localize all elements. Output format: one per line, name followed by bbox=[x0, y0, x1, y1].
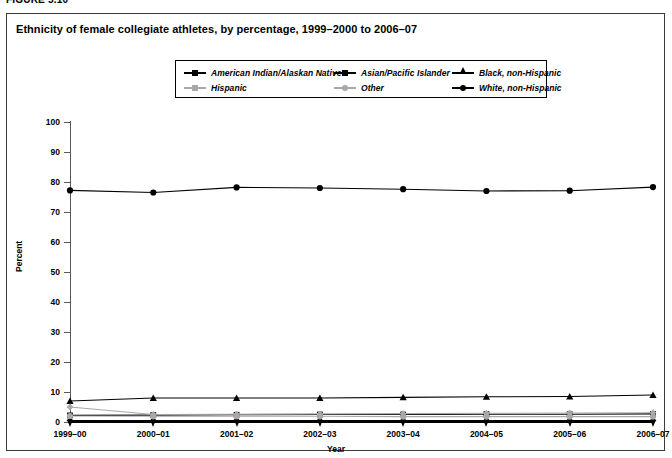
x-axis-line bbox=[70, 421, 654, 423]
y-axis-tick-label: 30 bbox=[36, 327, 60, 337]
x-axis-tick-label: 2005–06 bbox=[553, 429, 586, 439]
x-axis-tick bbox=[651, 422, 655, 427]
legend-item-hispanic: Hispanic bbox=[184, 83, 334, 93]
y-axis-tick bbox=[64, 302, 70, 303]
legend-label: American Indian/Alaskan Native bbox=[211, 68, 341, 78]
y-axis-tick bbox=[64, 272, 70, 273]
y-axis-tick bbox=[64, 122, 70, 123]
y-axis-tick-label: 50 bbox=[36, 267, 60, 277]
diamond-marker-icon bbox=[184, 68, 206, 78]
legend-item-american-indian: American Indian/Alaskan Native bbox=[184, 68, 334, 78]
y-axis-tick-label: 100 bbox=[36, 117, 60, 127]
y-axis-tick bbox=[64, 152, 70, 153]
legend-item-other: Other bbox=[334, 83, 452, 93]
y-axis-tick-label: 20 bbox=[36, 357, 60, 367]
x-axis-tick bbox=[151, 422, 155, 427]
y-axis-line bbox=[70, 121, 71, 423]
x-axis-tick bbox=[484, 422, 488, 427]
x-axis-tick-label: 2004–05 bbox=[470, 429, 503, 439]
y-axis-tick-label: 80 bbox=[36, 177, 60, 187]
y-axis-title: Percent bbox=[14, 241, 24, 272]
y-axis-tick-label: 40 bbox=[36, 297, 60, 307]
y-axis-tick-label: 60 bbox=[36, 237, 60, 247]
y-axis-tick bbox=[64, 182, 70, 183]
legend-item-black-non-hispanic: Black, non-Hispanic bbox=[452, 68, 561, 78]
legend-label: Hispanic bbox=[211, 83, 247, 93]
figure-title: Ethnicity of female collegiate athletes,… bbox=[16, 23, 417, 35]
legend-item-asian-pacific-islander: Asian/Pacific Islander bbox=[334, 68, 452, 78]
y-axis-tick bbox=[64, 362, 70, 363]
y-axis-tick-label: 10 bbox=[36, 387, 60, 397]
x-axis-tick bbox=[568, 422, 572, 427]
x-axis-title: Year bbox=[0, 444, 672, 454]
diamond-marker-icon bbox=[184, 83, 206, 93]
circle-marker-icon bbox=[452, 83, 474, 93]
figure-container: FIGURE 5.10 Ethnicity of female collegia… bbox=[0, 0, 672, 458]
y-axis-tick bbox=[64, 242, 70, 243]
x-axis-tick bbox=[318, 422, 322, 427]
x-axis-tick-label: 1999–00 bbox=[53, 429, 86, 439]
triangle-marker-icon bbox=[452, 68, 474, 78]
legend-item-white-non-hispanic: White, non-Hispanic bbox=[452, 83, 562, 93]
y-axis-tick-label: 90 bbox=[36, 147, 60, 157]
x-axis-tick bbox=[68, 422, 72, 427]
circle-marker-icon bbox=[334, 83, 356, 93]
legend-label: White, non-Hispanic bbox=[479, 83, 562, 93]
legend-label: Other bbox=[361, 83, 384, 93]
y-axis-tick bbox=[64, 212, 70, 213]
x-axis-tick-label: 2001–02 bbox=[220, 429, 253, 439]
y-axis-tick-label: 70 bbox=[36, 207, 60, 217]
x-axis-tick bbox=[235, 422, 239, 427]
y-axis-tick bbox=[64, 332, 70, 333]
y-axis-tick-label: 0 bbox=[36, 417, 60, 427]
legend-label: Asian/Pacific Islander bbox=[361, 68, 450, 78]
x-axis-tick-label: 2000–01 bbox=[137, 429, 170, 439]
square-marker-icon bbox=[334, 68, 356, 78]
figure-number-label: FIGURE 5.10 bbox=[6, 0, 68, 5]
legend-label: Black, non-Hispanic bbox=[479, 68, 561, 78]
x-axis-tick-label: 2002–03 bbox=[303, 429, 336, 439]
x-axis-tick-label: 2006–07 bbox=[636, 429, 669, 439]
x-axis-tick-label: 2003–04 bbox=[387, 429, 420, 439]
x-axis-tick bbox=[401, 422, 405, 427]
y-axis-tick bbox=[64, 392, 70, 393]
chart-legend: American Indian/Alaskan Native Asian/Pac… bbox=[175, 60, 547, 98]
